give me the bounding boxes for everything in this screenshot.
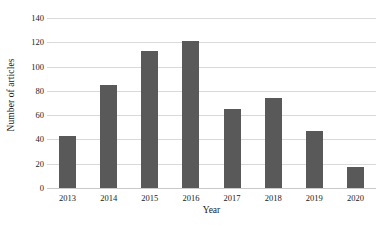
bar-slot-2013 bbox=[47, 18, 88, 188]
bar-2018[interactable] bbox=[265, 98, 282, 188]
bars-container bbox=[47, 18, 376, 188]
bar-2019[interactable] bbox=[306, 131, 323, 188]
x-tick-label-2014: 2014 bbox=[88, 190, 129, 206]
y-axis-tick-labels: 020406080100120140 bbox=[18, 0, 44, 190]
x-tick-label-2015: 2015 bbox=[129, 190, 170, 206]
bar-chart-figure: Number of articles 020406080100120140 20… bbox=[0, 0, 384, 226]
bar-2020[interactable] bbox=[347, 167, 364, 188]
bar-slot-2015 bbox=[129, 18, 170, 188]
bar-2015[interactable] bbox=[141, 51, 158, 188]
y-tick-label-0: 0 bbox=[18, 184, 44, 193]
y-tick-label-20: 20 bbox=[18, 159, 44, 168]
bar-2016[interactable] bbox=[182, 41, 199, 188]
y-tick-label-140: 140 bbox=[18, 14, 44, 23]
x-tick-label-2018: 2018 bbox=[253, 190, 294, 206]
bar-2014[interactable] bbox=[100, 85, 117, 188]
y-axis-title-text: Number of articles bbox=[6, 58, 16, 131]
bar-2013[interactable] bbox=[59, 136, 76, 188]
gridline-0 bbox=[47, 188, 376, 189]
bar-slot-2017 bbox=[212, 18, 253, 188]
x-tick-label-2020: 2020 bbox=[335, 190, 376, 206]
y-tick-label-40: 40 bbox=[18, 135, 44, 144]
x-tick-label-2016: 2016 bbox=[170, 190, 211, 206]
bar-slot-2014 bbox=[88, 18, 129, 188]
y-tick-label-60: 60 bbox=[18, 111, 44, 120]
bar-slot-2016 bbox=[170, 18, 211, 188]
bar-slot-2019 bbox=[294, 18, 335, 188]
x-tick-label-2017: 2017 bbox=[212, 190, 253, 206]
y-tick-label-80: 80 bbox=[18, 87, 44, 96]
x-axis-title: Year bbox=[47, 205, 376, 215]
y-tick-label-100: 100 bbox=[18, 62, 44, 71]
y-tick-label-120: 120 bbox=[18, 38, 44, 47]
x-tick-label-2019: 2019 bbox=[294, 190, 335, 206]
bar-slot-2020 bbox=[335, 18, 376, 188]
bar-slot-2018 bbox=[253, 18, 294, 188]
x-axis-tick-labels: 20132014201520162017201820192020 bbox=[47, 190, 376, 206]
plot-area bbox=[47, 18, 376, 188]
x-tick-label-2013: 2013 bbox=[47, 190, 88, 206]
bar-2017[interactable] bbox=[224, 109, 241, 188]
